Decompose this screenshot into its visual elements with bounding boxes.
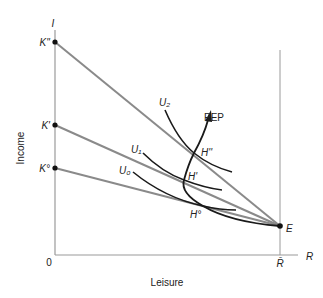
label-e: E [286, 223, 293, 234]
label-u0: U₀ [119, 165, 130, 176]
label-h1: H' [188, 171, 198, 182]
label-pep: PEP [204, 112, 224, 123]
point-k0 [52, 165, 57, 170]
x-axis-symbol: R [306, 251, 313, 262]
origin-label: 0 [46, 257, 52, 268]
label-h0: H° [190, 209, 201, 220]
point-k2 [52, 39, 57, 44]
x-axis-title: Leisure [151, 277, 184, 288]
budget-line-k1 [55, 125, 280, 226]
y-axis-title: Income [15, 131, 26, 164]
budget-line-k0 [55, 168, 280, 226]
indifference-curve-u1 [143, 153, 222, 190]
y-axis-symbol: I [52, 18, 55, 29]
label-u1: U₁ [131, 144, 141, 155]
label-h2: H'' [201, 147, 213, 158]
label-u2: U₂ [159, 97, 170, 108]
labor-supply-diagram: I R 0 R̄ Income Leisure K'' K' K° E U₂ U… [0, 0, 323, 298]
label-k1: K' [41, 120, 51, 131]
point-k1 [52, 122, 57, 127]
point-e [277, 223, 283, 229]
label-k0: K° [39, 163, 50, 174]
label-k2: K'' [40, 37, 52, 48]
budget-line-k2 [55, 42, 280, 226]
rbar-label: R̄ [276, 257, 283, 269]
